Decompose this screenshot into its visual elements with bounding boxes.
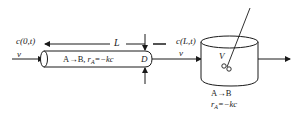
pfr-diameter-label: D (141, 55, 148, 64)
cstr-reaction: A→B (211, 89, 231, 98)
cstr-inlet-velocity: v (179, 49, 183, 58)
pfr-length-label: L (114, 38, 120, 48)
pfr-inlet-concentration: c(0,t) (16, 37, 35, 46)
pfr-reaction-text: A→B, rA=−kc (63, 55, 114, 65)
reactor-diagram: c(0,t) v L D A→B, rA=−kc c(L,t) v V A→B … (0, 0, 306, 117)
cstr-rate-text: rA=−kc (211, 100, 237, 110)
pfr-reaction: A→B, (63, 54, 88, 64)
cstr-volume-label: V (219, 52, 225, 61)
pfr-inlet-velocity: v (17, 50, 21, 59)
cstr-rate-expression: =−kc (218, 99, 237, 109)
cstr-inlet-concentration: c(L,t) (176, 37, 196, 46)
diagram-graphics (0, 0, 306, 117)
pfr-rate-expression: =−kc (95, 54, 114, 64)
